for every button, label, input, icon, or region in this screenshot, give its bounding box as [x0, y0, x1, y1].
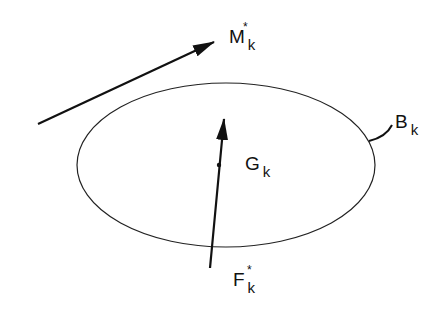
force-label: F*k [233, 270, 255, 289]
body-leader-line [369, 125, 392, 141]
center-label: Gk [245, 154, 270, 173]
center-of-mass-dot [217, 163, 221, 167]
moment-label-sub: k [248, 36, 256, 53]
moment-label-sup: * [243, 21, 248, 33]
body-label-sub: k [411, 121, 419, 138]
force-arrow [210, 119, 224, 268]
body-label-main: B [395, 111, 408, 132]
center-label-sub: k [263, 163, 271, 180]
center-label-main: G [245, 153, 260, 174]
force-label-sup: * [247, 264, 252, 276]
force-label-main: F [233, 269, 245, 290]
force-label-sub: k [248, 279, 256, 296]
moment-label: M*k [229, 27, 255, 46]
body-ellipse [77, 83, 375, 247]
diagram-canvas [0, 0, 442, 309]
body-label: Bk [395, 112, 418, 131]
moment-arrow [38, 42, 214, 124]
